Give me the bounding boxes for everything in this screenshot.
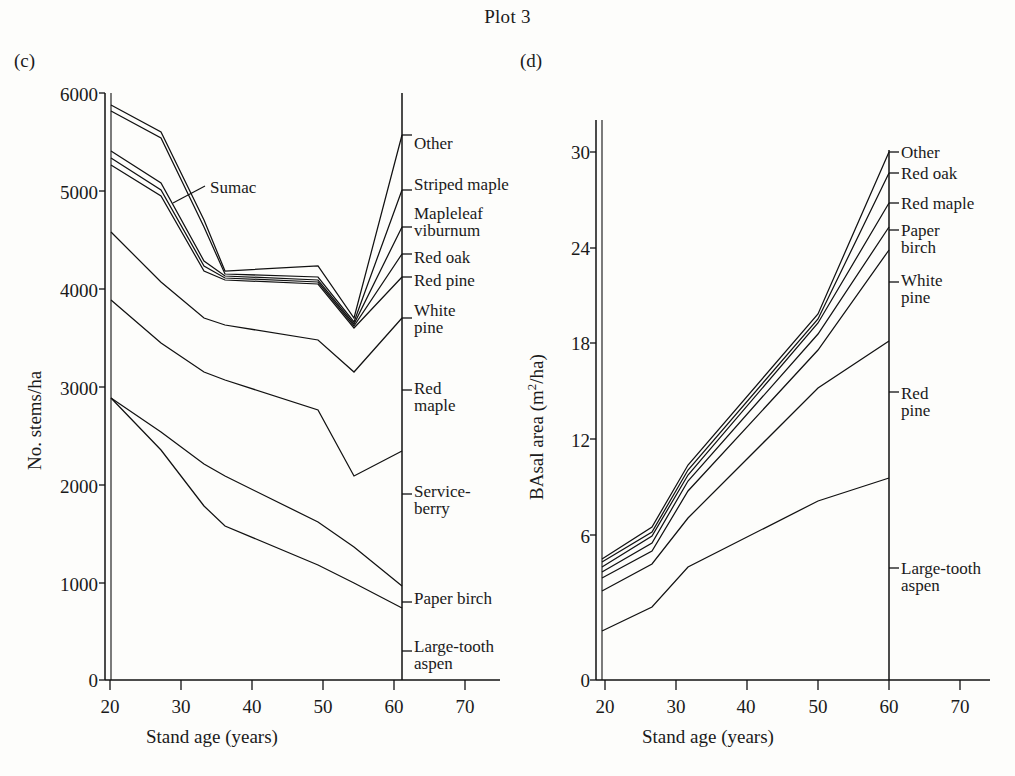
panel-d-plot-canvas xyxy=(0,0,1015,776)
figure-root: Plot 3 (c) (d) No. stems/ha Stand age (y… xyxy=(0,0,1015,776)
panel-d-line-paper-birch xyxy=(602,227,889,572)
panel-d-line-red-oak xyxy=(602,173,889,562)
panel-d-series-tickmarks xyxy=(889,152,899,568)
panel-d-y-tickmarks xyxy=(590,152,596,680)
panel-d-x-tickmarks xyxy=(605,680,960,690)
panel-d-line-red-maple xyxy=(602,203,889,567)
panel-d-line-red-pine xyxy=(602,341,889,591)
panel-d-line-white-pine xyxy=(602,250,889,578)
panel-d-line-other xyxy=(602,152,889,559)
